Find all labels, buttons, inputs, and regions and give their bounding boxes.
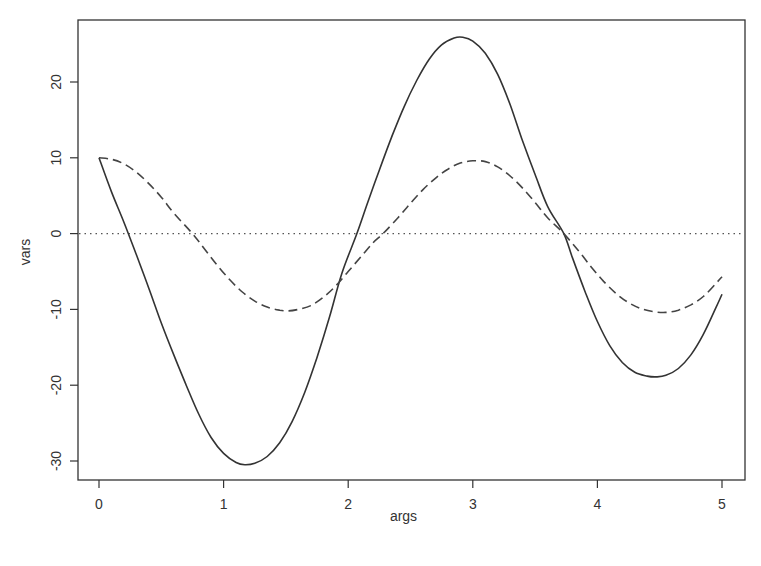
x-tick-label: 1 (220, 496, 228, 512)
x-tick-label: 5 (718, 496, 726, 512)
y-tick-label: 20 (48, 74, 64, 90)
y-tick-label: -10 (48, 299, 64, 319)
y-tick-label: -20 (48, 375, 64, 395)
y-tick-label: 0 (48, 229, 64, 237)
y-tick-label: -30 (48, 451, 64, 471)
x-tick-label: 4 (594, 496, 602, 512)
x-tick-label: 0 (95, 496, 103, 512)
series-layer (99, 37, 722, 465)
series-solid-line (99, 37, 722, 465)
y-tick-label: 10 (48, 150, 64, 166)
y-axis: -30-20-1001020 (48, 74, 78, 471)
line-chart: 012345 -30-20-1001020 args vars (0, 0, 761, 566)
x-axis-title: args (390, 508, 417, 524)
x-tick-label: 2 (344, 496, 352, 512)
x-tick-label: 3 (469, 496, 477, 512)
y-axis-title: vars (17, 239, 33, 265)
series-dashed-line (99, 158, 722, 313)
